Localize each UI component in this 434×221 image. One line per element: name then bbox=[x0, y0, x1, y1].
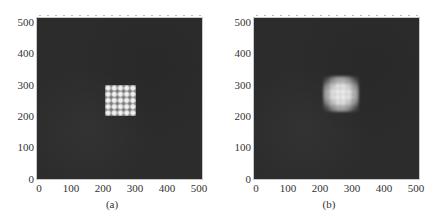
y-tick: 500 bbox=[235, 17, 252, 28]
x-tick: 0 bbox=[253, 183, 259, 194]
y-tick: 400 bbox=[18, 48, 35, 59]
x-tick: 300 bbox=[344, 183, 361, 194]
y-tick: 300 bbox=[18, 80, 35, 91]
caption-a: (a) bbox=[106, 198, 118, 210]
y-tick: 200 bbox=[235, 111, 252, 122]
panel-b: 500 400 300 200 100 0 0 100 200 300 400 … bbox=[217, 0, 434, 221]
x-tick: 500 bbox=[408, 183, 425, 194]
y-tick: 500 bbox=[18, 17, 35, 28]
caption-b: (b) bbox=[323, 198, 336, 210]
blurred-square bbox=[323, 76, 359, 112]
y-tick: 0 bbox=[246, 174, 252, 185]
image-plot-b bbox=[253, 17, 420, 180]
x-tick: 200 bbox=[95, 183, 112, 194]
y-tick: 300 bbox=[235, 80, 252, 91]
x-tick: 300 bbox=[127, 183, 144, 194]
x-tick: 400 bbox=[376, 183, 393, 194]
x-tick: 100 bbox=[280, 183, 297, 194]
x-tick: 500 bbox=[191, 183, 208, 194]
x-tick: 0 bbox=[36, 183, 42, 194]
y-tick: 0 bbox=[29, 174, 35, 185]
x-tick: 200 bbox=[312, 183, 329, 194]
y-tick: 100 bbox=[235, 142, 252, 153]
x-tick: 400 bbox=[159, 183, 176, 194]
y-tick: 200 bbox=[18, 111, 35, 122]
y-tick: 400 bbox=[235, 48, 252, 59]
image-plot-a bbox=[36, 17, 203, 180]
y-tick: 100 bbox=[18, 142, 35, 153]
panel-a: 500 400 300 200 100 0 0 100 200 300 400 … bbox=[0, 0, 217, 221]
checkerboard-pattern bbox=[105, 85, 136, 116]
x-tick: 100 bbox=[63, 183, 80, 194]
